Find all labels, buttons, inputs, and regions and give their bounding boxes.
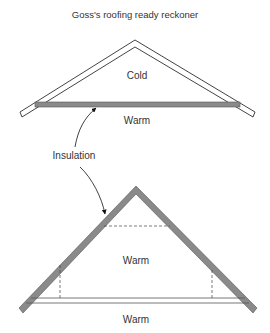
arrow-to-rafter-insulation bbox=[80, 167, 105, 214]
warm-label-top: Warm bbox=[124, 115, 150, 126]
warm-label-inner: Warm bbox=[123, 255, 149, 266]
roof-diagrams bbox=[0, 0, 270, 333]
ceiling-insulation bbox=[35, 102, 240, 107]
warm-roof-diagram bbox=[19, 186, 257, 313]
cold-label: Cold bbox=[127, 70, 148, 81]
insulation-label: Insulation bbox=[53, 150, 96, 161]
arrow-to-ceiling-insulation bbox=[75, 108, 96, 147]
warm-label-bottom: Warm bbox=[123, 314, 149, 325]
rafter-insulation bbox=[19, 186, 257, 313]
